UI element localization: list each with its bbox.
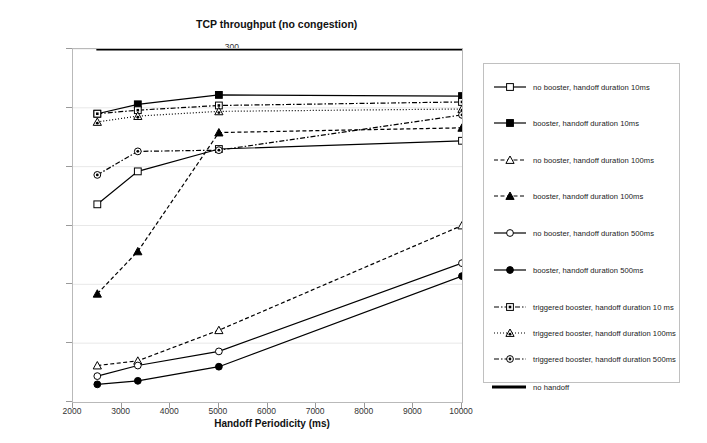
legend-marker-icon	[490, 116, 530, 130]
plot-series-svg	[73, 49, 462, 402]
legend-item[interactable]: booster, handoff duration 500ms	[490, 263, 643, 277]
series-0	[94, 137, 462, 207]
legend-marker-icon	[490, 326, 530, 340]
legend-marker-icon	[490, 380, 530, 394]
series-line	[97, 128, 462, 294]
series-line	[97, 109, 462, 122]
x-tick-mark	[72, 403, 73, 408]
legend-label: triggered booster, handoff duration 100m…	[530, 329, 676, 338]
series-3	[93, 124, 462, 297]
legend-label: no booster, handoff duration 100ms	[530, 156, 654, 165]
x-tick-mark	[315, 403, 316, 408]
legend-item[interactable]: triggered booster, handoff duration 100m…	[490, 326, 676, 340]
legend-marker-icon	[490, 263, 530, 277]
legend-label: triggered booster, handoff duration 10 m…	[530, 303, 674, 312]
legend-item[interactable]: no booster, handoff duration 100ms	[490, 153, 654, 167]
legend-label: no handoff	[530, 383, 569, 392]
legend-label: no booster, handoff duration 10ms	[530, 83, 650, 92]
legend-item[interactable]: triggered booster, handoff duration 500m…	[490, 352, 676, 366]
series-line	[97, 115, 462, 175]
x-tick-mark	[218, 403, 219, 408]
legend-marker-icon	[490, 153, 530, 167]
legend-item[interactable]: no handoff	[490, 380, 569, 394]
legend-label: booster, handoff duration 100ms	[530, 192, 643, 201]
legend-item[interactable]: triggered booster, handoff duration 10 m…	[490, 300, 674, 314]
chart-container: TCP throughput (no congestion) Throughpu…	[0, 0, 707, 443]
legend-item[interactable]: booster, handoff duration 100ms	[490, 189, 643, 203]
chart-title: TCP throughput (no congestion)	[196, 18, 357, 30]
x-tick-mark	[169, 403, 170, 408]
plot-area	[72, 48, 463, 403]
legend-label: booster, handoff duration 500ms	[530, 266, 643, 275]
x-tick-mark	[461, 403, 462, 408]
legend-item[interactable]: no booster, handoff duration 10ms	[490, 80, 650, 94]
series-2	[93, 222, 462, 369]
series-line	[97, 263, 462, 376]
series-line	[97, 276, 462, 384]
x-tick-mark	[364, 403, 365, 408]
legend-marker-icon	[490, 80, 530, 94]
legend-marker-icon	[490, 189, 530, 203]
legend-label: booster, handoff duration 10ms	[530, 119, 639, 128]
series-line	[97, 141, 462, 205]
legend-label: triggered booster, handoff duration 500m…	[530, 355, 676, 364]
legend-label: no booster, handoff duration 500ms	[530, 229, 654, 238]
legend-marker-icon	[490, 352, 530, 366]
x-tick-mark	[267, 403, 268, 408]
x-tick-mark	[121, 403, 122, 408]
legend-item[interactable]: no booster, handoff duration 500ms	[490, 226, 654, 240]
legend-marker-icon	[490, 226, 530, 240]
x-tick-mark	[412, 403, 413, 408]
series-4	[94, 260, 462, 380]
chart-legend: no booster, handoff duration 10msbooster…	[483, 63, 680, 383]
x-axis-title: Handoff Periodicity (ms)	[152, 418, 392, 429]
legend-item[interactable]: booster, handoff duration 10ms	[490, 116, 639, 130]
legend-marker-icon	[490, 300, 530, 314]
